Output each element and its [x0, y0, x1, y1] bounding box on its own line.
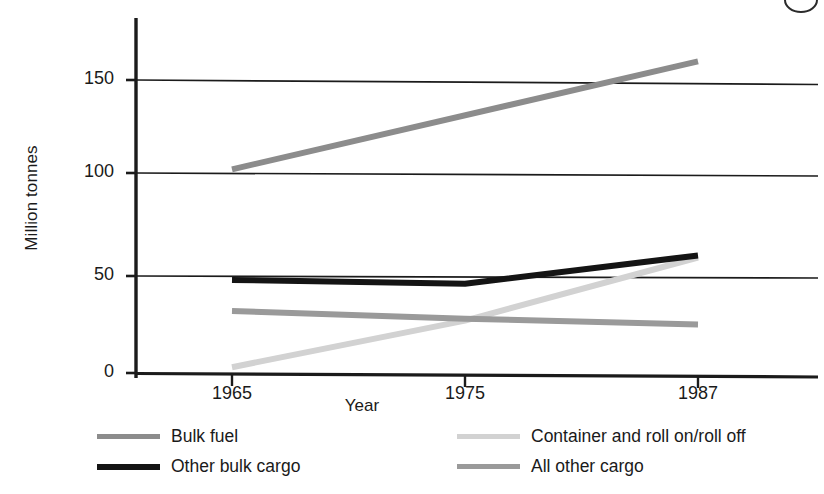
y-tick-label-100: 100 [52, 161, 114, 182]
line-chart-plot [0, 0, 824, 420]
y-tick-label-0: 0 [52, 361, 114, 382]
legend-item-bulk-fuel: Bulk fuel [97, 428, 238, 446]
legend-label-all-other-cargo: All other cargo [531, 458, 644, 476]
y-axis-label: Million tonnes [22, 108, 42, 288]
gridline-150 [136, 80, 818, 85]
y-tick-label-50: 50 [52, 264, 114, 285]
x-tick-label-1965: 1965 [187, 383, 277, 404]
legend-label-bulk-fuel: Bulk fuel [171, 428, 238, 446]
x-axis-label: Year [317, 396, 407, 416]
y-tick-label-150: 150 [52, 68, 114, 89]
legend-item-container-roll-on-roll-off: Container and roll on/roll off [457, 428, 746, 446]
x-tick-label-1975: 1975 [420, 383, 510, 404]
series-line-other-bulk-cargo [232, 255, 698, 283]
chart-figure: Million tonnes 150 100 50 0 1965 1975 19… [0, 0, 824, 494]
legend-item-other-bulk-cargo: Other bulk cargo [97, 458, 300, 476]
legend-swatch-all-other-cargo [457, 464, 520, 469]
x-tick-label-1987: 1987 [653, 383, 743, 404]
legend-swatch-container-roll-on-roll-off [457, 434, 520, 439]
x-axis-line [136, 374, 818, 378]
legend-label-other-bulk-cargo: Other bulk cargo [171, 458, 300, 476]
legend-item-all-other-cargo: All other cargo [457, 458, 644, 476]
legend-label-container-roll-on-roll-off: Container and roll on/roll off [531, 428, 746, 446]
gridline-100 [136, 173, 818, 176]
legend-swatch-bulk-fuel [97, 434, 160, 439]
series-line-bulk-fuel [232, 61, 698, 169]
chart-legend: Bulk fuel Other bulk cargo Container and… [0, 428, 824, 490]
legend-swatch-other-bulk-cargo [97, 464, 160, 470]
